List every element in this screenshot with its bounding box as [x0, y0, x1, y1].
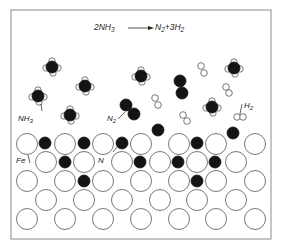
fe-atom — [74, 190, 95, 211]
fe-atom — [131, 171, 152, 192]
fe-atom — [169, 209, 190, 230]
fe-atom — [112, 152, 133, 173]
fe-atom — [36, 190, 57, 211]
h-atom — [223, 84, 230, 91]
fe-atom — [55, 209, 76, 230]
fe-atom — [112, 190, 133, 211]
svg-text:N2+3H2: N2+3H2 — [155, 22, 185, 33]
fe-atom — [93, 209, 114, 230]
fe-atom — [55, 134, 76, 155]
fe-atom — [131, 209, 152, 230]
fe-label: Fe — [16, 156, 26, 165]
h-atom — [226, 90, 233, 97]
fe-atom — [187, 152, 208, 173]
fe-atom — [206, 171, 227, 192]
fe-atom — [17, 171, 38, 192]
fe-atom — [245, 134, 266, 155]
h-atom — [201, 70, 208, 77]
n-atom — [46, 61, 58, 73]
fe-atom — [93, 134, 114, 155]
fe-atom — [17, 134, 38, 155]
n-atom — [78, 137, 90, 149]
fe-atom — [55, 171, 76, 192]
n-atom — [191, 175, 203, 187]
fe-atom — [169, 134, 190, 155]
h-atom — [155, 102, 162, 109]
n-atom — [152, 124, 164, 136]
n-atom — [79, 80, 91, 92]
n-label: N — [98, 156, 104, 165]
fe-atom — [169, 171, 190, 192]
n-atom — [64, 109, 76, 121]
fe-atom — [74, 152, 95, 173]
n-atom — [227, 127, 239, 139]
h-atom — [152, 95, 159, 102]
n-atom — [135, 70, 147, 82]
n-atom — [176, 87, 188, 99]
fe-atom — [93, 171, 114, 192]
fe-atom — [226, 190, 247, 211]
fe-atom — [150, 190, 171, 211]
n-atom — [116, 137, 128, 149]
fe-atom — [131, 134, 152, 155]
fe-atom — [187, 190, 208, 211]
n-atom — [172, 156, 184, 168]
h-atom — [184, 118, 191, 125]
fe-atom — [245, 209, 266, 230]
h-atom — [180, 112, 187, 119]
n-atom — [206, 101, 218, 113]
n-atom — [128, 108, 140, 120]
ammonia-decomposition-diagram: 2NH3 N2+3H2 NH3 N2 H2 Fe N — [0, 0, 282, 247]
fe-atom — [226, 152, 247, 173]
n-atom — [39, 137, 51, 149]
h-atom — [240, 114, 247, 121]
n-atom — [59, 156, 71, 168]
n-atom — [134, 156, 146, 168]
fe-atom — [150, 152, 171, 173]
fe-atom — [206, 134, 227, 155]
h-atom — [198, 63, 205, 70]
fe-atom — [17, 209, 38, 230]
n-atom — [191, 137, 203, 149]
n-atom — [174, 75, 186, 87]
n-atom — [78, 175, 90, 187]
n-atom — [32, 90, 44, 102]
fe-atom — [36, 152, 57, 173]
n-atom — [228, 62, 240, 74]
fe-atom — [206, 209, 227, 230]
fe-atom — [245, 171, 266, 192]
n-atom — [209, 156, 221, 168]
